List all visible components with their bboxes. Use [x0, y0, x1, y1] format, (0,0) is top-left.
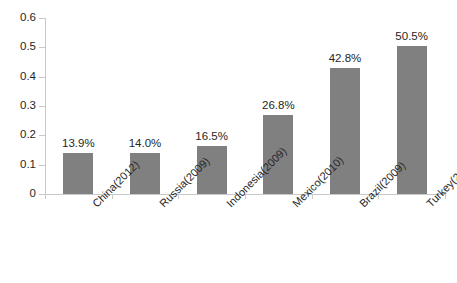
y-tick-label: 0.4: [20, 69, 36, 84]
bar: [63, 153, 93, 194]
y-tick-label: 0.3: [20, 98, 36, 113]
x-category-label: Russia(2009): [157, 201, 166, 210]
y-tick-label: 0: [30, 186, 36, 201]
x-tick-mark: [45, 194, 46, 199]
y-tick-label: 0.5: [20, 39, 36, 54]
bar-value-label: 26.8%: [248, 98, 308, 112]
x-category-label: Mexico(2010): [290, 201, 299, 210]
bar-value-label: 42.8%: [315, 51, 375, 65]
bar-chart: 00.10.20.30.40.50.6 13.9%14.0%16.5%26.8%…: [0, 0, 457, 283]
bar-value-label: 50.5%: [382, 29, 442, 43]
bars-layer: [45, 18, 445, 194]
x-category-label: Indonesia(2009): [224, 201, 233, 210]
bar-value-label: 16.5%: [182, 129, 242, 143]
y-tick-label: 0.6: [20, 10, 36, 25]
x-category-label: Turkey(2008): [424, 201, 433, 210]
bar-value-label: 14.0%: [115, 136, 175, 150]
y-tick-label: 0.2: [20, 127, 36, 142]
x-category-label: China(2012): [90, 201, 99, 210]
x-category-label: Brazil(2009): [357, 201, 366, 210]
bar-value-label: 13.9%: [48, 136, 108, 150]
bar: [330, 68, 360, 194]
y-tick-label: 0.1: [20, 157, 36, 172]
